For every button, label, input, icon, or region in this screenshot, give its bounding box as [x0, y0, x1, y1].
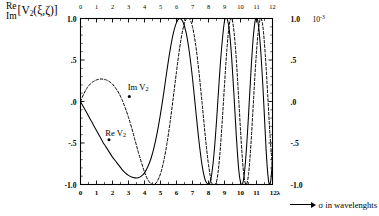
y-tick-label-left: 1.0: [67, 14, 77, 23]
x-tick-label-bottom: 7: [191, 189, 195, 197]
curve-re-v2: [81, 17, 273, 185]
x-tick-label-bottom: 12λ: [270, 189, 280, 197]
y-tick-label-right: .5: [291, 56, 297, 65]
x-tick-label-top: 9: [223, 3, 226, 10]
curve-im-v2: [81, 18, 273, 186]
x-tick-label-bottom: 1: [95, 189, 99, 197]
annotation-subscript: 2: [123, 131, 126, 138]
annotation-re-v2: Re V2: [105, 128, 126, 139]
axis-ticks: [81, 19, 273, 185]
x-tick-label-top: 11: [253, 3, 259, 10]
x-tick-label-bottom: 8: [207, 189, 211, 197]
plot-frame: [81, 19, 273, 185]
y-tick-label-right: -1.0: [291, 180, 303, 189]
x-tick-label-top: 4: [143, 3, 146, 10]
x-tick-label-bottom: 6: [175, 189, 179, 197]
annotation-im-v2: Im V2: [128, 82, 149, 93]
plot-canvas: [0, 0, 379, 216]
x-tick-label-top: 3: [127, 3, 130, 10]
y-tick-label-right: -.5: [291, 139, 299, 148]
y-tick-label-right: 1.0: [291, 14, 301, 23]
x-tick-label-bottom: 0: [79, 189, 83, 197]
annotation-text: Im V: [128, 82, 146, 92]
annotation-subscript: 2: [145, 86, 148, 93]
x-tick-label-top: 8: [207, 3, 210, 10]
x-tick-label-top: 0: [79, 3, 82, 10]
x-tick-label-bottom: 11: [253, 189, 260, 197]
annotation-text: Re V: [105, 128, 123, 138]
x-tick-label-bottom: 10: [237, 189, 244, 197]
x-tick-label-top: 7: [191, 3, 194, 10]
x-tick-label-top: 1: [95, 3, 98, 10]
x-tick-label-top: 12: [269, 3, 275, 10]
x-tick-label-top: 2: [111, 3, 114, 10]
x-tick-label-top: 6: [175, 3, 178, 10]
x-tick-label-bottom: 5: [159, 189, 163, 197]
y-tick-label-left: .5: [71, 56, 77, 65]
figure-plot: Re Im [V2(ξ,ζ)] 10-3 σ in wavelenghts 01…: [0, 0, 379, 216]
x-tick-label-bottom: 3: [127, 189, 131, 197]
x-tick-label-bottom: 4: [143, 189, 147, 197]
y-tick-label-left: -1.0: [64, 180, 76, 189]
y-tick-label-right: .0: [291, 97, 297, 106]
x-tick-label-top: 10: [237, 3, 243, 10]
x-tick-label-bottom: 2: [111, 189, 115, 197]
y-tick-label-left: .0: [71, 97, 77, 106]
y-tick-label-left: -.5: [68, 139, 76, 148]
x-tick-label-top: 5: [159, 3, 162, 10]
data-series: [81, 17, 273, 185]
x-tick-label-bottom: 9: [223, 189, 227, 197]
